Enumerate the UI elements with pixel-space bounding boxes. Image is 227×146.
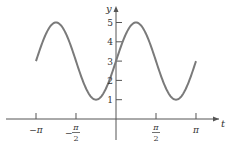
x-axis-label: t: [221, 118, 226, 129]
y-tick-label: 1: [107, 95, 113, 105]
x-axis-arrow-icon: [213, 117, 219, 122]
y-axis-label: y: [105, 3, 112, 14]
x-tick-label: π: [152, 123, 159, 132]
x-tick-label: −: [65, 128, 73, 138]
x-tick-label: π: [72, 123, 79, 132]
y-tick-label: 3: [107, 57, 113, 67]
y-tick-label: 2: [107, 76, 113, 86]
plot-svg: ty−π−π2π2π12345: [0, 0, 227, 146]
y-tick-label: 5: [107, 18, 113, 28]
x-tick-label: −π: [29, 125, 44, 135]
x-tick-label: 2: [153, 134, 158, 143]
x-tick-label: π: [192, 125, 200, 135]
y-axis-arrow-icon: [114, 6, 119, 12]
y-tick-label: 4: [107, 37, 113, 47]
function-plot: ty−π−π2π2π12345: [0, 0, 227, 146]
x-tick-label: 2: [73, 134, 78, 143]
